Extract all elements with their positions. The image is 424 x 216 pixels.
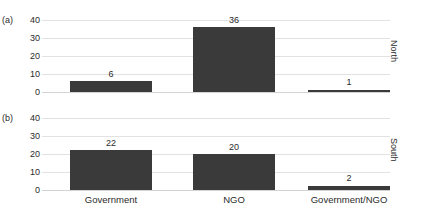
x-label-government: Government [85, 194, 137, 205]
bar-group-government: 6 [70, 20, 152, 92]
y-tick-30: 30 [0, 132, 40, 141]
y-tick-0: 0 [0, 186, 40, 195]
bar-group-government: 22 [70, 118, 152, 190]
panel-b-y-axis: 40 30 20 10 0 [0, 118, 40, 190]
bar-government-ngo[interactable] [308, 90, 390, 92]
x-label-ngo: NGO [223, 194, 245, 205]
panel-a-y-axis: 40 30 20 10 0 [0, 20, 40, 92]
bar-government[interactable] [70, 150, 152, 190]
bar-government-ngo[interactable] [308, 186, 390, 190]
panel-a-plot-area: 6 36 1 [42, 20, 390, 92]
y-tick-0: 0 [0, 88, 40, 97]
y-tick-40: 40 [0, 114, 40, 123]
baseline-0 [42, 92, 390, 93]
bar-chart-figure: (a) 40 30 20 10 0 6 36 [0, 0, 424, 216]
bar-group-government-ngo: 1 [308, 20, 390, 92]
bar-value-government-ngo: 2 [346, 174, 351, 183]
y-tick-40: 40 [0, 16, 40, 25]
bar-group-government-ngo: 2 [308, 118, 390, 190]
bar-group-ngo: 36 [193, 20, 275, 92]
chart-panel-south: (b) 40 30 20 10 0 22 20 [0, 104, 424, 208]
bar-ngo[interactable] [193, 27, 275, 92]
baseline-0 [42, 190, 390, 191]
bar-value-ngo: 36 [229, 16, 239, 25]
bar-government[interactable] [70, 81, 152, 92]
bar-value-government: 22 [106, 139, 116, 148]
bar-ngo[interactable] [193, 154, 275, 190]
region-label-north: North [389, 40, 398, 62]
y-tick-20: 20 [0, 52, 40, 61]
y-tick-10: 10 [0, 168, 40, 177]
bar-group-ngo: 20 [193, 118, 275, 190]
x-axis-category-labels: Government NGO Government/NGO [42, 194, 390, 208]
bar-value-ngo: 20 [229, 143, 239, 152]
y-tick-10: 10 [0, 70, 40, 79]
chart-panel-north: (a) 40 30 20 10 0 6 36 [0, 6, 424, 102]
y-tick-20: 20 [0, 150, 40, 159]
region-label-south: South [389, 138, 398, 162]
panel-b-plot-area: 22 20 2 [42, 118, 390, 190]
x-label-government-ngo: Government/NGO [311, 194, 388, 205]
y-tick-30: 30 [0, 34, 40, 43]
bar-value-government: 6 [108, 70, 113, 79]
bar-value-government-ngo: 1 [346, 78, 351, 87]
